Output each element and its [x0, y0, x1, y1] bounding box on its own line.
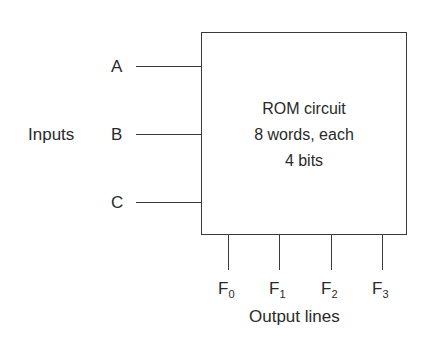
output-f1-base: F: [269, 279, 279, 298]
inputs-group-label: Inputs: [28, 126, 74, 143]
output-label-f2: F2: [321, 280, 338, 297]
rom-block-label: ROM circuit 8 words, each 4 bits: [201, 96, 407, 174]
input-line-c: [136, 202, 201, 203]
input-label-b: B: [111, 126, 122, 143]
output-f0-base: F: [218, 279, 228, 298]
output-f3-subscript: 3: [382, 288, 388, 300]
output-label-f3: F3: [372, 280, 389, 297]
outputs-group-label: Output lines: [249, 308, 340, 325]
output-f2-base: F: [321, 279, 331, 298]
output-label-f1: F1: [269, 280, 286, 297]
rom-label-line-1: ROM circuit: [201, 96, 407, 122]
input-line-b: [136, 134, 201, 135]
output-line-f3: [382, 235, 383, 270]
rom-label-line-3: 4 bits: [201, 148, 407, 174]
input-line-a: [136, 66, 201, 67]
output-f1-subscript: 1: [279, 288, 285, 300]
input-label-a: A: [111, 58, 122, 75]
output-label-f0: F0: [218, 280, 235, 297]
rom-label-line-2: 8 words, each: [201, 122, 407, 148]
output-line-f2: [331, 235, 332, 270]
output-f3-base: F: [372, 279, 382, 298]
input-label-c: C: [111, 194, 123, 211]
output-f2-subscript: 2: [331, 288, 337, 300]
output-line-f0: [228, 235, 229, 270]
output-line-f1: [279, 235, 280, 270]
output-f0-subscript: 0: [228, 288, 234, 300]
